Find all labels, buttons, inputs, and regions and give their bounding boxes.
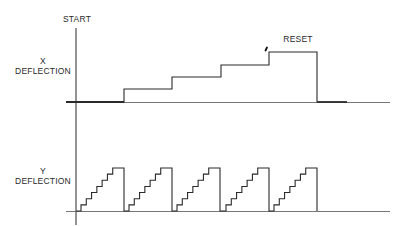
x-deflection-label-line1: X [12,56,74,66]
x-deflection-waveform [76,52,317,102]
timing-diagram [0,0,405,226]
y-deflection-label-line2: DEFLECTION [12,176,74,186]
start-label: START [62,14,92,24]
x-deflection-label-line2: DEFLECTION [12,66,74,76]
y-deflection-label-line1: Y [12,166,74,176]
y-deflection-waveform [76,168,317,211]
reset-tick-mark [266,48,268,51]
reset-label: RESET [280,34,316,44]
y-deflection-label: Y DEFLECTION [12,166,74,186]
x-deflection-label: X DEFLECTION [12,56,74,76]
